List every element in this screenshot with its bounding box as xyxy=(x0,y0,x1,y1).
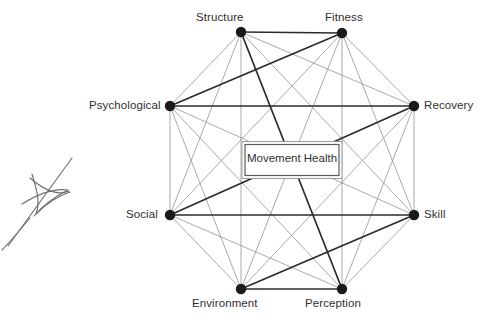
chord-edge-psychological-perception xyxy=(170,106,342,289)
node-label-environment: Environment xyxy=(192,297,258,309)
chord-edge-fitness-social xyxy=(170,33,342,215)
node-label-perception: Perception xyxy=(305,297,361,309)
node-dot-structure[interactable] xyxy=(236,27,246,37)
perimeter-edge-skill-environment xyxy=(241,215,414,289)
node-label-structure: Structure xyxy=(196,11,244,23)
node-label-psychological: Psychological xyxy=(89,99,161,111)
node-dot-recovery[interactable] xyxy=(409,101,419,111)
node-label-fitness: Fitness xyxy=(325,11,363,23)
node-label-social: Social xyxy=(126,208,158,220)
perimeter-edge-structure-fitness xyxy=(241,32,342,33)
node-dot-psychological[interactable] xyxy=(165,101,175,111)
chord-edge-skill-perception xyxy=(342,215,414,289)
chord-edge-structure-skill xyxy=(241,32,414,215)
chord-edge-fitness-recovery xyxy=(342,33,414,106)
node-dot-perception[interactable] xyxy=(337,284,347,294)
chord-edge-psychological-environment xyxy=(170,106,241,289)
chord-edge-recovery-environment xyxy=(241,106,414,289)
node-dot-social[interactable] xyxy=(165,210,175,220)
node-dot-environment[interactable] xyxy=(236,284,246,294)
node-label-skill: Skill xyxy=(424,208,446,220)
node-label-recovery: Recovery xyxy=(424,99,473,111)
perimeter-edge-fitness-psychological xyxy=(170,33,342,106)
node-dot-skill[interactable] xyxy=(409,210,419,220)
node-dot-fitness[interactable] xyxy=(337,28,347,38)
chord-edge-social-environment xyxy=(170,215,241,289)
chord-edge-social-perception xyxy=(170,215,342,289)
diagram-canvas: StructureFitnessPsychologicalRecoverySoc… xyxy=(0,0,493,327)
chord-edge-structure-psychological xyxy=(170,32,241,106)
center-node-label: Movement Health xyxy=(245,152,339,164)
